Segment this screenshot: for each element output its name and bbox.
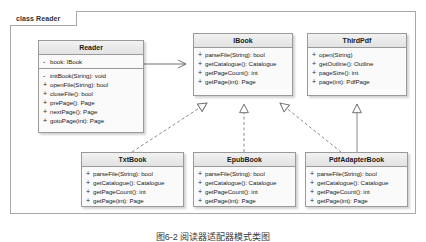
class-name-ibook: IBook	[233, 37, 252, 44]
class-member: + open(String)	[308, 50, 406, 59]
class-header-reader: Reader	[39, 41, 143, 55]
uml-diagram-canvas: class Reader	[0, 0, 426, 242]
member-signature: getPageCount(): int	[205, 188, 258, 195]
class-header-thirdpdf: ThirdPdf	[308, 34, 406, 48]
visibility-marker: -	[43, 58, 50, 65]
visibility-marker: +	[86, 188, 93, 195]
visibility-marker: +	[312, 78, 319, 85]
class-attributes-reader: - book: IBook	[39, 55, 143, 68]
class-member: + getPage(int): Page	[194, 77, 292, 86]
member-signature: page(int): PdfPage	[319, 78, 370, 85]
class-name-reader: Reader	[79, 44, 103, 51]
class-member: + parseFile(String): bool	[82, 169, 183, 178]
member-signature: getPageCount(): int	[93, 188, 146, 195]
member-signature: getCatalogue(): Catalogue	[205, 60, 276, 67]
member-signature: getPage(int): Page	[93, 197, 144, 204]
uml-class-pdfadapterbook[interactable]: PdfAdapterBook + parseFile(String): bool…	[305, 152, 408, 207]
uml-frame-label: class Reader	[16, 15, 60, 22]
member-signature: open(String)	[319, 51, 352, 58]
class-member: + parseFile(String): bool	[306, 169, 407, 178]
class-header-txtbook: TxtBook	[82, 153, 183, 167]
visibility-marker: +	[86, 197, 93, 204]
class-header-pdfadapterbook: PdfAdapterBook	[306, 153, 407, 167]
visibility-marker: +	[310, 179, 317, 186]
class-member: - initBook(String): void	[39, 71, 143, 80]
class-name-txtbook: TxtBook	[119, 156, 147, 163]
visibility-marker: +	[198, 78, 205, 85]
class-name-epubbook: EpubBook	[227, 156, 262, 163]
member-signature: nextPage(): Page	[50, 108, 97, 115]
class-member: + getPage(int): Page	[306, 196, 407, 205]
member-signature: getCatalogue(): Catalogue	[317, 179, 388, 186]
class-member: + nextPage(): Page	[39, 107, 143, 116]
visibility-marker: +	[43, 81, 50, 88]
class-operations-ibook: + parseFile(String): bool + getCatalogue…	[194, 48, 292, 88]
member-signature: getCatalogue(): Catalogue	[93, 179, 164, 186]
member-signature: getPageCount(): int	[205, 69, 258, 76]
class-member: + gotoPage(int): Page	[39, 116, 143, 125]
uml-class-thirdpdf[interactable]: ThirdPdf + open(String) + getOutline(): …	[307, 33, 407, 96]
visibility-marker: +	[198, 188, 205, 195]
class-member: + parseFile(String): bool	[194, 50, 292, 59]
class-member: - book: IBook	[39, 57, 143, 66]
visibility-marker: +	[43, 117, 50, 124]
member-signature: getOutline(): Outline	[319, 60, 373, 67]
uml-class-reader[interactable]: Reader - book: IBook - initBook(String):…	[38, 40, 144, 133]
member-signature: getPage(int): Page	[205, 78, 256, 85]
class-operations-reader: - initBook(String): void + openFile(Stri…	[39, 68, 143, 127]
class-member: + getCatalogue(): Catalogue	[194, 178, 295, 187]
visibility-marker: +	[43, 99, 50, 106]
class-name-thirdpdf: ThirdPdf	[343, 37, 372, 44]
uml-class-epubbook[interactable]: EpubBook + parseFile(String): bool + get…	[193, 152, 296, 207]
class-member: + getPageCount(): int	[306, 187, 407, 196]
visibility-marker: +	[198, 51, 205, 58]
visibility-marker: +	[43, 108, 50, 115]
class-operations-epubbook: + parseFile(String): bool + getCatalogue…	[194, 167, 295, 207]
visibility-marker: +	[43, 90, 50, 97]
member-signature: parseFile(String): bool	[205, 170, 265, 177]
class-header-epubbook: EpubBook	[194, 153, 295, 167]
class-member: + page(int): PdfPage	[308, 77, 406, 86]
member-signature: book: IBook	[50, 58, 82, 65]
visibility-marker: +	[198, 69, 205, 76]
class-header-ibook: IBook	[194, 34, 292, 48]
member-signature: parseFile(String): bool	[93, 170, 153, 177]
class-member: + getPageCount(): int	[194, 187, 295, 196]
uml-frame-tab: class Reader	[10, 11, 77, 26]
uml-class-txtbook[interactable]: TxtBook + parseFile(String): bool + getC…	[81, 152, 184, 207]
visibility-marker: +	[310, 170, 317, 177]
class-member: + closeFile(): bool	[39, 89, 143, 98]
member-signature: getCatalogue(): Catalogue	[205, 179, 276, 186]
visibility-marker: +	[312, 69, 319, 76]
class-member: + getOutline(): Outline	[308, 59, 406, 68]
visibility-marker: +	[312, 51, 319, 58]
class-member: + getPageCount(): int	[82, 187, 183, 196]
class-member: + getCatalogue(): Catalogue	[82, 178, 183, 187]
member-signature: closeFile(): bool	[50, 90, 93, 97]
figure-caption: 图6-2 阅读器适配器模式类图	[0, 230, 426, 242]
member-signature: openFile(String): bool	[50, 81, 108, 88]
visibility-marker: +	[86, 179, 93, 186]
visibility-marker: +	[310, 188, 317, 195]
class-member: + parseFile(String): bool	[194, 169, 295, 178]
class-member: + getPage(int): Page	[194, 196, 295, 205]
member-signature: gotoPage(int): Page	[50, 117, 104, 124]
member-signature: getPageCount(): int	[317, 188, 370, 195]
visibility-marker: +	[198, 197, 205, 204]
member-signature: pageSize(): int	[319, 69, 358, 76]
visibility-marker: +	[310, 197, 317, 204]
uml-class-ibook[interactable]: IBook + parseFile(String): bool + getCat…	[193, 33, 293, 96]
visibility-marker: +	[198, 179, 205, 186]
visibility-marker: -	[43, 72, 50, 79]
class-name-pdfadapterbook: PdfAdapterBook	[329, 156, 384, 163]
class-operations-pdfadapterbook: + parseFile(String): bool + getCatalogue…	[306, 167, 407, 207]
visibility-marker: +	[198, 170, 205, 177]
visibility-marker: +	[86, 170, 93, 177]
class-member: + prePage(): Page	[39, 98, 143, 107]
class-member: + getCatalogue(): Catalogue	[194, 59, 292, 68]
class-operations-thirdpdf: + open(String) + getOutline(): Outline +…	[308, 48, 406, 88]
class-member: + openFile(String): bool	[39, 80, 143, 89]
member-signature: getPage(int): Page	[317, 197, 368, 204]
class-member: + getPageCount(): int	[194, 68, 292, 77]
visibility-marker: +	[312, 60, 319, 67]
